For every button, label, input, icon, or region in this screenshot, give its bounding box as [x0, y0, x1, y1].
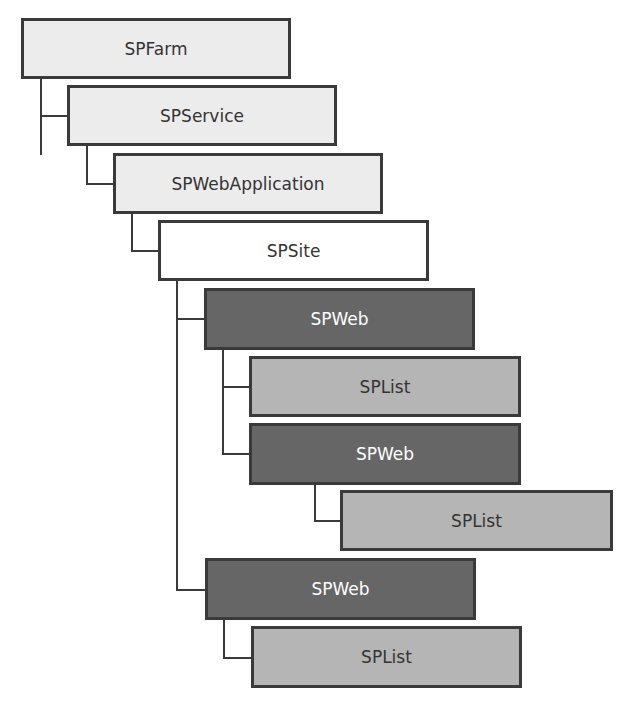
node-splist: SPList [251, 626, 522, 688]
connector-site-web1 [176, 318, 206, 320]
connector-web1-children [222, 348, 224, 455]
connector-farm-service [40, 115, 69, 117]
node-spweb: SPWeb [205, 558, 476, 620]
connector-webapp-site [131, 250, 160, 252]
connector-web1-web2 [222, 453, 251, 455]
node-spfarm: SPFarm [21, 18, 291, 79]
node-spwebapplication: SPWebApplication [113, 153, 383, 214]
node-spservice: SPService [67, 85, 337, 146]
connector-service-webapp [86, 145, 88, 185]
connector-webapp-site [131, 212, 133, 252]
connector-web2-list2 [314, 483, 316, 522]
node-splist: SPList [340, 490, 613, 551]
node-spweb: SPWeb [204, 288, 475, 350]
node-spweb: SPWeb [249, 423, 521, 485]
node-splist: SPList [249, 356, 521, 417]
connector-site-webs [176, 279, 178, 591]
node-spsite: SPSite [158, 220, 429, 281]
connector-web3-list3 [223, 657, 253, 659]
connector-site-web3 [176, 589, 207, 591]
connector-service-webapp [86, 183, 115, 185]
connector-web2-list2 [314, 520, 342, 522]
sharepoint-object-hierarchy-diagram: SPFarm SPService SPWebApplication SPSite… [0, 0, 629, 703]
connector-web3-list3 [223, 618, 225, 659]
connector-web1-list1 [222, 386, 251, 388]
